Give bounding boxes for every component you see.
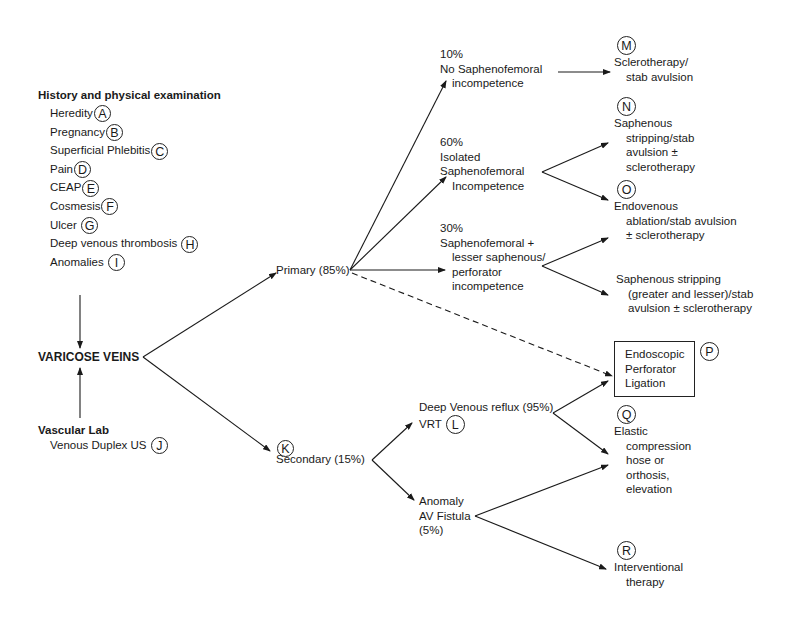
marker-P-wrap: P — [699, 342, 719, 361]
marker-A: A — [94, 105, 111, 122]
branch-30pct: 30% Saphenofemoral + lesser saphenous/ p… — [440, 221, 545, 294]
history-item-cosmesis: CosmesisF — [50, 197, 198, 216]
arrow-secondary-to-deep — [372, 423, 412, 460]
root-varicose-veins: VARICOSE VEINS — [38, 350, 139, 365]
treatment-M: M Sclerotherapy/ stab avulsion — [614, 36, 693, 84]
branch-60pct: 60% Isolated Saphenofemoral Incompetence — [440, 135, 524, 193]
marker-B: B — [106, 124, 123, 141]
marker-C: C — [151, 143, 168, 160]
marker-R: R — [617, 541, 636, 560]
treatment-O: O Endovenous ablation/stab avulsion ± sc… — [614, 180, 737, 243]
history-heading: History and physical examination — [38, 88, 221, 103]
primary-node: Primary (85%) — [276, 263, 349, 278]
vascular-lab-heading: Vascular Lab — [38, 423, 109, 438]
treatment-Q: Q Elastic compression hose or orthosis, … — [614, 405, 691, 497]
history-item-ulcer: Ulcer G — [50, 216, 198, 235]
marker-Q: Q — [617, 405, 636, 424]
arrow-30pct-to-O — [542, 238, 608, 266]
anomaly-av-fistula-node: Anomaly AV Fistula (5%) — [419, 494, 471, 538]
marker-E: E — [82, 180, 99, 197]
arrow-root-to-primary — [143, 273, 276, 357]
history-item-ceap: CEAPE — [50, 178, 198, 197]
marker-D: D — [74, 161, 91, 178]
treatment-R: R Interventional therapy — [614, 541, 683, 589]
marker-L: L — [446, 415, 465, 434]
history-list: HeredityA PregnancyB Superficial Phlebit… — [50, 104, 198, 271]
branch-10pct: 10% No Saphenofemoral incompetence — [440, 47, 542, 91]
arrow-anomaly-to-R — [475, 516, 606, 569]
arrow-deep-to-P — [553, 381, 608, 413]
arrow-60pct-to-N — [542, 143, 608, 172]
arrow-anomaly-to-Q — [475, 465, 608, 516]
history-item-anomalies: Anomalies I — [50, 253, 198, 272]
marker-N: N — [617, 97, 636, 116]
deep-venous-reflux-node: Deep Venous reflux (95%) VRT L — [419, 400, 553, 434]
secondary-node: Secondary (15%) — [276, 452, 365, 467]
history-item-pain: PainD — [50, 160, 198, 179]
arrow-60pct-to-O — [542, 172, 608, 200]
marker-F: F — [101, 198, 118, 215]
history-item-pregnancy: PregnancyB — [50, 123, 198, 142]
arrow-deep-to-Q — [553, 413, 608, 454]
vascular-lab-item: Venous Duplex US J — [50, 437, 168, 454]
history-item-superficial-phlebitis: Superficial PhlebitisC — [50, 141, 198, 160]
marker-I: I — [108, 254, 125, 271]
marker-J: J — [151, 437, 168, 454]
arrow-secondary-to-anomaly — [372, 460, 414, 500]
arrow-primary-to-10pct — [350, 81, 446, 270]
history-item-dvt: Deep venous thrombosis H — [50, 234, 198, 253]
marker-G: G — [81, 217, 98, 234]
treatment-saphenous-stripping: Saphenous stripping (greater and lesser)… — [616, 272, 753, 316]
arrow-primary-to-60pct — [350, 177, 446, 270]
marker-O: O — [617, 180, 636, 199]
treatment-P-box: Endoscopic Perforator Ligation — [614, 341, 695, 397]
marker-M: M — [617, 36, 636, 55]
arrow-30pct-to-S — [542, 266, 608, 295]
marker-H: H — [181, 236, 198, 253]
treatment-N: N Saphenous stripping/stab avulsion ± sc… — [614, 97, 695, 174]
history-item-heredity: HeredityA — [50, 104, 198, 123]
marker-P: P — [700, 342, 719, 361]
